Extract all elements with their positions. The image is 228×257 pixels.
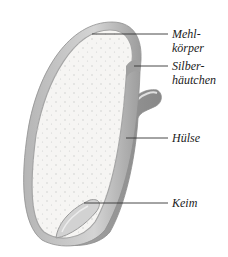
label-line: Keim — [172, 196, 197, 210]
label-mehlkoerper: Mehl- körper — [172, 27, 204, 55]
label-line: körper — [172, 41, 204, 55]
label-line: Silber- — [172, 59, 216, 73]
label-line: Hülse — [172, 131, 200, 145]
label-line: häutchen — [172, 73, 216, 87]
label-silberhaeutchen: Silber- häutchen — [172, 59, 216, 87]
label-keim: Keim — [172, 196, 197, 210]
label-huelse: Hülse — [172, 131, 200, 145]
label-line: Mehl- — [172, 27, 204, 41]
